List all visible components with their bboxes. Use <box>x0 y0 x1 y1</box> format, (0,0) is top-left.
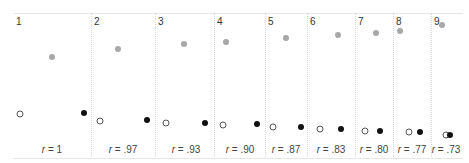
filled-circle-point <box>144 117 150 123</box>
correlation-label: r = .80 <box>360 144 389 155</box>
correlation-label: r = .93 <box>172 144 201 155</box>
panel-number-label: 4 <box>217 16 223 27</box>
open-circle-point <box>17 111 24 118</box>
panel-number-label: 7 <box>358 16 364 27</box>
filled-circle-point <box>447 132 453 138</box>
grey-point <box>397 28 403 34</box>
panel-number-label: 8 <box>396 16 402 27</box>
open-circle-point <box>362 128 369 135</box>
correlation-label: r = .77 <box>398 144 427 155</box>
filled-circle-point <box>338 126 344 132</box>
correlation-label: r = .73 <box>432 144 461 155</box>
panel-number-label: 6 <box>310 16 316 27</box>
filled-circle-point <box>417 129 423 135</box>
panel-number-label: 2 <box>94 16 100 27</box>
grey-point <box>223 39 229 45</box>
panel-separator <box>431 13 432 157</box>
open-circle-point <box>406 129 413 136</box>
panel-separator <box>91 13 92 157</box>
open-circle-point <box>163 120 170 127</box>
open-circle-point <box>220 122 227 129</box>
filled-circle-point <box>81 110 87 116</box>
panel-separator <box>155 13 156 157</box>
open-circle-point <box>97 118 104 125</box>
chart-frame <box>13 13 463 159</box>
grey-point <box>439 22 445 28</box>
filled-circle-point <box>377 128 383 134</box>
grey-point <box>49 54 55 60</box>
filled-circle-point <box>298 124 304 130</box>
filled-circle-point <box>254 121 260 127</box>
open-circle-point <box>270 124 277 131</box>
grey-point <box>373 30 379 36</box>
grey-point <box>181 41 187 47</box>
filled-circle-point <box>202 120 208 126</box>
panel-separator <box>265 13 266 157</box>
correlation-label: r = .83 <box>317 144 346 155</box>
panel-number-label: 3 <box>158 16 164 27</box>
grey-point <box>283 35 289 41</box>
panel-separator <box>214 13 215 157</box>
grey-point <box>115 46 121 52</box>
panel-separator <box>355 13 356 157</box>
panel-separator <box>307 13 308 157</box>
correlation-label: r = 1 <box>42 144 62 155</box>
grey-point <box>335 32 341 38</box>
open-circle-point <box>317 126 324 133</box>
correlation-label: r = .97 <box>109 144 138 155</box>
panel-number-label: 5 <box>268 16 274 27</box>
panel-separator <box>393 13 394 157</box>
correlation-label: r = .87 <box>272 144 301 155</box>
panel-number-label: 1 <box>16 16 22 27</box>
correlation-label: r = .90 <box>226 144 255 155</box>
